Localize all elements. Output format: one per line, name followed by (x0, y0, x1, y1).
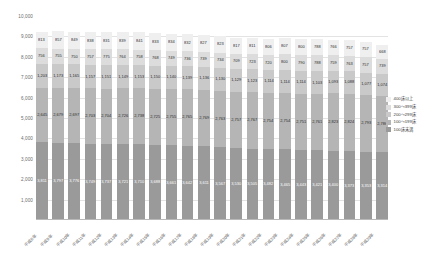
bar-column[interactable]: 8347491,1402,7553,661 (166, 16, 178, 220)
bar-segment[interactable]: 2,757 (230, 92, 242, 148)
bar-segment[interactable]: 749 (166, 51, 178, 66)
stacked-bar[interactable]: 8577551,1732,6793,797 (52, 31, 64, 220)
stacked-bar[interactable]: 8078001,1142,7543,465 (279, 38, 291, 220)
stacked-bar[interactable]: 8067201,1142,7543,482 (263, 39, 275, 220)
bar-segment[interactable]: 3,661 (166, 145, 178, 220)
stacked-bar[interactable]: 8007901,1142,7513,443 (295, 39, 307, 220)
stacked-bar[interactable]: 8337681,1502,7253,688 (149, 33, 161, 220)
bar-segment[interactable]: 2,697 (68, 88, 80, 143)
bar-column[interactable]: 8177091,1292,7573,530 (230, 16, 242, 220)
stacked-bar[interactable]: 8117231,1232,7673,505 (247, 38, 259, 220)
bar-segment[interactable]: 800 (295, 39, 307, 55)
bar-segment[interactable]: 720 (263, 55, 275, 70)
bar-segment[interactable]: 3,353 (360, 152, 372, 220)
bar-segment[interactable]: 3,567 (214, 147, 226, 220)
bar-segment[interactable]: 3,465 (279, 149, 291, 220)
bar-segment[interactable]: 1,103 (311, 71, 323, 94)
bar-column[interactable]: 8337681,1502,7253,688 (149, 16, 161, 220)
bar-segment[interactable]: 2,703 (85, 88, 97, 143)
stacked-bar[interactable]: 7577571,0772,7933,353 (360, 42, 372, 220)
bar-column[interactable]: 8497501,1652,6973,776 (68, 16, 80, 220)
legend-item[interactable]: 400床以上 (386, 97, 438, 102)
bar-segment[interactable]: 788 (311, 55, 323, 71)
bar-segment[interactable]: 833 (149, 33, 161, 50)
bar-segment[interactable]: 788 (311, 39, 323, 55)
bar-segment[interactable]: 1,088 (344, 71, 356, 93)
bar-segment[interactable]: 2,761 (311, 94, 323, 150)
bar-segment[interactable]: 806 (263, 39, 275, 55)
bar-segment[interactable]: 817 (230, 38, 242, 55)
bar-segment[interactable]: 3,710 (133, 144, 145, 220)
bar-segment[interactable]: 2,767 (247, 92, 259, 148)
bar-segment[interactable]: 759 (328, 55, 340, 70)
bar-segment[interactable]: 3,688 (149, 145, 161, 220)
bar-segment[interactable]: 834 (166, 34, 178, 51)
bar-segment[interactable]: 668 (376, 45, 388, 59)
bar-segment[interactable]: 757 (360, 57, 372, 72)
bar-segment[interactable]: 790 (295, 55, 307, 71)
bar-segment[interactable]: 736 (182, 51, 194, 66)
bar-segment[interactable]: 758 (133, 50, 145, 65)
bar-segment[interactable]: 2,751 (295, 94, 307, 150)
bar-segment[interactable]: 1,114 (263, 70, 275, 93)
bar-segment[interactable]: 2,824 (344, 94, 356, 152)
bar-segment[interactable]: 1,114 (279, 70, 291, 93)
stacked-bar[interactable]: 8387571,1572,7033,749 (85, 32, 97, 220)
bar-segment[interactable]: 755 (52, 49, 64, 64)
bar-column[interactable]: 8397641,1492,7263,721 (117, 16, 129, 220)
bar-segment[interactable]: 3,611 (198, 146, 210, 220)
bar-segment[interactable]: 3,797 (52, 143, 64, 220)
bar-column[interactable]: 8067201,1142,7543,482 (263, 16, 275, 220)
bar-segment[interactable]: 709 (230, 54, 242, 68)
bar-segment[interactable]: 756 (36, 48, 48, 63)
bar-segment[interactable]: 839 (117, 32, 129, 49)
bar-segment[interactable]: 766 (328, 40, 340, 56)
bar-segment[interactable]: 2,679 (52, 88, 64, 143)
stacked-bar[interactable]: 7577631,0882,8243,373 (344, 40, 356, 220)
bar-segment[interactable]: 827 (198, 35, 210, 52)
bar-segment[interactable]: 1,139 (182, 66, 194, 89)
bar-segment[interactable]: 838 (85, 32, 97, 49)
bar-segment[interactable]: 3,721 (117, 144, 129, 220)
legend-item[interactable]: 100床未満 (386, 127, 438, 132)
bar-segment[interactable]: 1,077 (360, 73, 372, 95)
bar-segment[interactable]: 1,149 (117, 65, 129, 88)
stacked-bar[interactable]: 8497501,1652,6973,776 (68, 32, 80, 220)
bar-segment[interactable]: 2,755 (166, 89, 178, 145)
bar-segment[interactable]: 823 (214, 36, 226, 53)
bar-segment[interactable]: 2,793 (360, 95, 372, 152)
bar-column[interactable]: 7667591,0932,8233,400 (328, 16, 340, 220)
bar-segment[interactable]: 739 (376, 59, 388, 74)
stacked-bar[interactable]: 8317751,1512,7043,737 (101, 32, 113, 220)
bar-segment[interactable]: 1,074 (376, 74, 388, 96)
bar-column[interactable]: 7577571,0772,7933,353 (360, 16, 372, 220)
bar-segment[interactable]: 734 (214, 53, 226, 68)
bar-segment[interactable]: 2,726 (117, 88, 129, 144)
legend-item[interactable]: 200～299床 (386, 112, 438, 117)
bar-segment[interactable]: 3,421 (311, 150, 323, 220)
bar-column[interactable]: 8327361,1392,7653,642 (182, 16, 194, 220)
bar-segment[interactable]: 3,400 (328, 151, 340, 220)
stacked-bar[interactable]: 8137561,2032,6453,811 (36, 32, 48, 220)
bar-column[interactable]: 8417581,1532,7383,710 (133, 16, 145, 220)
stacked-bar[interactable]: 8347491,1402,7553,661 (166, 34, 178, 220)
bar-segment[interactable]: 807 (279, 38, 291, 54)
bar-column[interactable]: 8237341,1302,7633,567 (214, 16, 226, 220)
bar-segment[interactable]: 1,093 (328, 71, 340, 93)
bar-segment[interactable]: 841 (133, 32, 145, 49)
stacked-bar[interactable]: 7887881,1032,7613,421 (311, 39, 323, 220)
bar-segment[interactable]: 3,642 (182, 146, 194, 220)
bar-segment[interactable]: 1,150 (149, 66, 161, 89)
bar-segment[interactable]: 768 (149, 50, 161, 66)
bar-segment[interactable]: 3,749 (85, 144, 97, 220)
bar-segment[interactable]: 723 (247, 54, 259, 69)
bar-segment[interactable]: 1,153 (133, 65, 145, 89)
bar-segment[interactable]: 1,130 (214, 68, 226, 91)
bar-segment[interactable]: 1,151 (101, 65, 113, 88)
bar-segment[interactable]: 813 (36, 32, 48, 49)
legend-item[interactable]: 300～399床 (386, 105, 438, 110)
bar-segment[interactable]: 2,765 (182, 89, 194, 145)
bar-column[interactable]: 8007901,1142,7513,443 (295, 16, 307, 220)
bar-segment[interactable]: 1,140 (166, 66, 178, 89)
stacked-bar[interactable]: 7667591,0932,8233,400 (328, 40, 340, 220)
